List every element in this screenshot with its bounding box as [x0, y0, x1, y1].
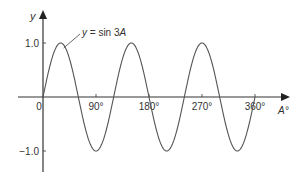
y-tick-label: −1.0	[19, 146, 39, 157]
y-axis-label: y	[29, 10, 37, 22]
x-tick-label: 0	[36, 101, 42, 112]
x-axis-label: A°	[277, 105, 289, 116]
x-axis-arrow-icon	[281, 93, 290, 101]
annotation-var: A	[119, 27, 127, 38]
axes	[18, 10, 290, 172]
y-tick-label: 1.0	[25, 38, 39, 49]
chart: 090°180°270°360°1.0−1.0 y A° y = sin 3A	[0, 0, 304, 180]
annotation-label: y = sin 3A	[81, 27, 127, 38]
annotation-leader	[64, 34, 80, 48]
y-axis-arrow-icon	[39, 10, 47, 19]
x-tick-label: 90°	[88, 101, 103, 112]
x-tick-label: 270°	[192, 101, 213, 112]
x-tick-label: 360°	[245, 101, 266, 112]
annotation-eq: = sin 3	[87, 27, 120, 38]
x-tick-label: 180°	[139, 101, 160, 112]
